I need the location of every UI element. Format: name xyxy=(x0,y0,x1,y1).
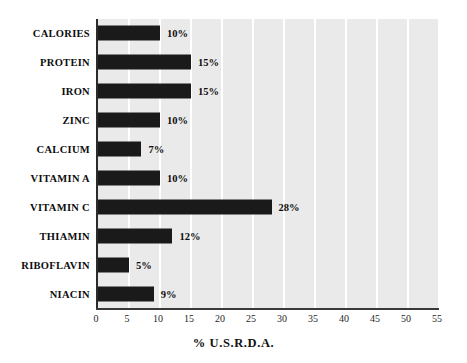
bar-vitamin-c xyxy=(98,199,272,214)
bar-value-thiamin: 12% xyxy=(179,230,200,241)
chart-row: PROTEIN15% xyxy=(0,48,467,77)
bar-value-zinc: 10% xyxy=(167,115,188,126)
bar-protein xyxy=(98,55,191,70)
x-tick-label-20: 20 xyxy=(215,313,225,324)
bar-calcium xyxy=(98,142,141,157)
chart-row: RIBOFLAVIN5% xyxy=(0,250,467,279)
category-label-calories: CALORIES xyxy=(33,28,90,39)
chart-rows: CALORIES10%PROTEIN15%IRON15%ZINC10%CALCI… xyxy=(0,0,467,363)
bar-niacin xyxy=(98,286,154,301)
chart-row: ZINC10% xyxy=(0,106,467,135)
bar-value-protein: 15% xyxy=(198,57,219,68)
bar-value-niacin: 9% xyxy=(161,288,177,299)
category-label-zinc: ZINC xyxy=(63,115,90,126)
bar-chart-figure: CALORIES10%PROTEIN15%IRON15%ZINC10%CALCI… xyxy=(0,0,467,363)
x-tick-label-50: 50 xyxy=(401,313,411,324)
bar-zinc xyxy=(98,113,160,128)
x-tick-label-35: 35 xyxy=(308,313,318,324)
x-tick-label-0: 0 xyxy=(94,313,99,324)
x-tick-label-25: 25 xyxy=(246,313,256,324)
x-tick-label-10: 10 xyxy=(153,313,163,324)
x-tick-label-5: 5 xyxy=(125,313,130,324)
bar-thiamin xyxy=(98,228,172,243)
x-tick-label-40: 40 xyxy=(339,313,349,324)
category-label-calcium: CALCIUM xyxy=(37,144,90,155)
bar-riboflavin xyxy=(98,257,129,272)
category-label-iron: IRON xyxy=(61,86,90,97)
bar-iron xyxy=(98,84,191,99)
chart-row: VITAMIN C28% xyxy=(0,192,467,221)
category-label-riboflavin: RIBOFLAVIN xyxy=(21,259,90,270)
chart-row: CALCIUM7% xyxy=(0,135,467,164)
bar-value-iron: 15% xyxy=(198,86,219,97)
x-tick-label-45: 45 xyxy=(370,313,380,324)
bar-value-vitamin-a: 10% xyxy=(167,172,188,183)
bar-vitamin-a xyxy=(98,170,160,185)
chart-row: IRON15% xyxy=(0,77,467,106)
x-axis-tick-labels: 0510152025303540455055 xyxy=(0,313,467,329)
category-label-vitamin-a: VITAMIN A xyxy=(31,172,90,183)
x-tick-label-30: 30 xyxy=(277,313,287,324)
x-axis-title: % U.S.R.D.A. xyxy=(0,336,467,351)
bar-calories xyxy=(98,26,160,41)
bar-value-calcium: 7% xyxy=(148,144,164,155)
bar-value-vitamin-c: 28% xyxy=(279,201,300,212)
category-label-thiamin: THIAMIN xyxy=(39,230,90,241)
chart-row: CALORIES10% xyxy=(0,19,467,48)
x-tick-label-55: 55 xyxy=(432,313,442,324)
category-label-vitamin-c: VITAMIN C xyxy=(30,201,90,212)
category-label-protein: PROTEIN xyxy=(40,57,90,68)
bar-value-calories: 10% xyxy=(167,28,188,39)
x-tick-label-15: 15 xyxy=(184,313,194,324)
chart-row: NIACIN9% xyxy=(0,279,467,308)
bar-value-riboflavin: 5% xyxy=(136,259,152,270)
category-label-niacin: NIACIN xyxy=(50,288,90,299)
chart-row: THIAMIN12% xyxy=(0,221,467,250)
chart-row: VITAMIN A10% xyxy=(0,164,467,193)
